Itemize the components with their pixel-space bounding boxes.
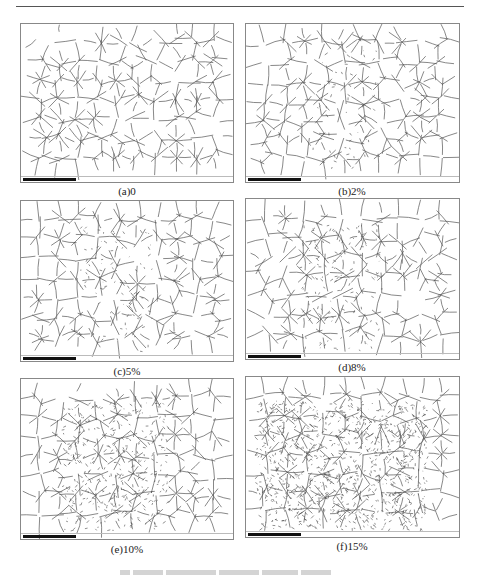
panel-label-f: (f)15% <box>312 540 392 552</box>
scale-bar-divider <box>21 533 233 534</box>
header-rule <box>16 6 464 7</box>
scale-bar <box>248 533 301 536</box>
panel-label-e: (e)10% <box>87 543 167 555</box>
scale-bar-divider <box>246 176 459 177</box>
figure-panel-b <box>245 23 460 183</box>
figure-caption-clipped <box>120 566 360 575</box>
figure-panel-a <box>20 23 234 183</box>
panel-label-a: (a)0 <box>87 185 167 197</box>
grain-boundary-map <box>21 24 233 182</box>
grain-boundary-map <box>246 199 459 359</box>
grain-boundary-map <box>21 379 233 539</box>
figure-panel-f <box>245 376 460 538</box>
figure-panel-d <box>245 198 460 360</box>
grain-boundary-map <box>21 201 233 361</box>
scale-bar <box>23 178 76 181</box>
panel-label-d: (d)8% <box>312 361 392 373</box>
grain-boundary-map <box>246 377 459 537</box>
scale-bar-divider <box>246 531 459 532</box>
scale-bar <box>248 355 301 358</box>
figure-panel-e <box>20 378 234 540</box>
scale-bar <box>23 357 76 360</box>
scale-bar-divider <box>21 176 233 177</box>
scale-bar-divider <box>246 353 459 354</box>
grain-boundary-map <box>246 24 459 182</box>
scale-bar-divider <box>21 355 233 356</box>
panel-label-b: (b)2% <box>312 185 392 197</box>
scale-bar <box>248 178 301 181</box>
figure-panel-c <box>20 200 234 362</box>
panel-label-c: (c)5% <box>87 365 167 377</box>
scale-bar <box>23 535 76 538</box>
